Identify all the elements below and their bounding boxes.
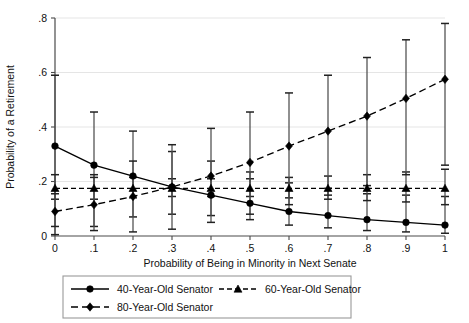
data-point-marker — [325, 127, 332, 135]
y-tick-label: .6 — [38, 66, 47, 78]
y-tick-label: 0 — [41, 230, 47, 242]
x-tick-label: .4 — [207, 242, 216, 254]
x-tick-label: .8 — [363, 242, 372, 254]
chart-canvas: 0.2.4.6.80.1.2.3.4.5.6.7.8.91Probability… — [0, 0, 469, 323]
data-point-marker — [130, 192, 137, 200]
legend-label: 60-Year-Old Senator — [265, 283, 361, 295]
x-axis-title: Probability of Being in Minority in Next… — [143, 257, 356, 269]
y-axis-title: Probability of a Retirement — [4, 65, 16, 189]
data-point-marker — [364, 112, 371, 120]
legend-marker — [87, 286, 94, 293]
legend-label: 80-Year-Old Senator — [117, 301, 213, 313]
data-point-marker — [442, 222, 449, 229]
x-tick-label: 1 — [442, 242, 448, 254]
data-point-marker — [442, 75, 449, 83]
data-point-marker — [403, 219, 410, 226]
data-point-marker — [52, 143, 59, 150]
y-tick-label: .4 — [38, 121, 47, 133]
x-tick-label: .2 — [129, 242, 138, 254]
data-point-marker — [286, 142, 293, 150]
x-tick-label: .5 — [246, 242, 255, 254]
chart-figure: 0.2.4.6.80.1.2.3.4.5.6.7.8.91Probability… — [0, 0, 469, 323]
data-point-marker — [91, 200, 98, 208]
x-tick-label: 0 — [52, 242, 58, 254]
x-tick-label: .3 — [168, 242, 177, 254]
data-point-marker — [325, 212, 332, 219]
data-point-marker — [208, 192, 215, 199]
x-tick-label: .9 — [402, 242, 411, 254]
data-point-marker — [130, 173, 137, 180]
data-point-marker — [247, 200, 254, 207]
x-tick-label: .6 — [285, 242, 294, 254]
data-point-marker — [52, 207, 59, 215]
x-tick-label: .7 — [324, 242, 333, 254]
y-tick-label: .8 — [38, 12, 47, 24]
data-point-marker — [364, 216, 371, 223]
data-point-marker — [286, 208, 293, 215]
x-tick-label: .1 — [90, 242, 99, 254]
legend-label: 40-Year-Old Senator — [117, 283, 213, 295]
y-tick-label: .2 — [38, 175, 47, 187]
data-point-marker — [247, 158, 254, 166]
data-point-marker — [91, 162, 98, 169]
data-point-marker — [403, 94, 410, 102]
